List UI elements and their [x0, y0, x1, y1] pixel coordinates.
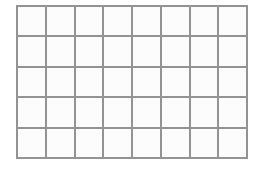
grid-cell-r5-c5	[133, 129, 160, 157]
grid-cell-r1-c7	[191, 7, 218, 35]
grid-cell-r5-c8	[219, 129, 246, 157]
grid-cell-r4-c7	[191, 98, 218, 126]
grid-cell-r2-c2	[47, 37, 74, 65]
grid-cell-r3-c2	[47, 68, 74, 96]
grid-cell-r4-c4	[104, 98, 131, 126]
grid-cell-r1-c6	[162, 7, 189, 35]
grid-cell-r4-c6	[162, 98, 189, 126]
grid-cell-r2-c4	[104, 37, 131, 65]
grid-cell-r3-c1	[18, 68, 45, 96]
grid-cell-r3-c3	[76, 68, 103, 96]
grid-cell-r1-c1	[18, 7, 45, 35]
grid-cell-r3-c6	[162, 68, 189, 96]
grid-cell-r3-c7	[191, 68, 218, 96]
grid-cell-r4-c1	[18, 98, 45, 126]
grid-cell-r2-c5	[133, 37, 160, 65]
grid-cell-r1-c5	[133, 7, 160, 35]
grid-cell-r1-c4	[104, 7, 131, 35]
grid-cell-r2-c3	[76, 37, 103, 65]
grid-cell-r4-c5	[133, 98, 160, 126]
grid-cell-r4-c8	[219, 98, 246, 126]
grid-cell-r5-c6	[162, 129, 189, 157]
figure-canvas	[0, 0, 263, 171]
grid-cell-r5-c2	[47, 129, 74, 157]
grid-cell-r3-c4	[104, 68, 131, 96]
grid-cell-r2-c7	[191, 37, 218, 65]
grid-cell-r5-c3	[76, 129, 103, 157]
grid-table	[16, 5, 248, 159]
grid-cell-r2-c1	[18, 37, 45, 65]
grid-cell-r2-c8	[219, 37, 246, 65]
grid-cell-r4-c2	[47, 98, 74, 126]
grid-cell-r5-c4	[104, 129, 131, 157]
grid-cell-r1-c8	[219, 7, 246, 35]
grid-cell-r1-c3	[76, 7, 103, 35]
grid-cell-r1-c2	[47, 7, 74, 35]
grid-cell-r5-c7	[191, 129, 218, 157]
grid-cell-r5-c1	[18, 129, 45, 157]
grid-cell-r3-c8	[219, 68, 246, 96]
grid-cell-r4-c3	[76, 98, 103, 126]
grid-cell-r2-c6	[162, 37, 189, 65]
grid-cell-r3-c5	[133, 68, 160, 96]
